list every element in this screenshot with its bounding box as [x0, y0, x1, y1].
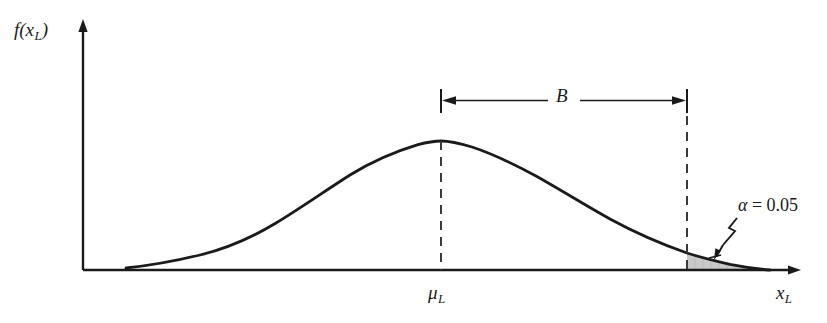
dimension-arrowhead-left	[442, 96, 456, 105]
x-axis-label-subscript: L	[784, 291, 792, 306]
figure-canvas	[0, 0, 827, 323]
x-axis-arrowhead	[788, 265, 801, 274]
y-axis-label: f(xL)	[14, 20, 48, 39]
density-curve	[126, 141, 770, 270]
mean-label-subscript: L	[438, 291, 446, 306]
y-axis-arrowhead	[78, 19, 87, 32]
dimension-arrowhead-right	[672, 96, 686, 105]
alpha-value-text: = 0.05	[747, 195, 798, 215]
y-axis-label-subscript: L	[34, 28, 42, 43]
mean-label-symbol: μ	[428, 282, 438, 303]
mean-label: μL	[428, 283, 445, 302]
interval-label: B	[556, 86, 568, 105]
y-axis-label-close: )	[42, 19, 48, 40]
x-axis-label: xL	[776, 283, 792, 302]
y-axis-label-text: f(x	[14, 19, 34, 40]
alpha-leader-zigzag	[723, 218, 737, 245]
alpha-label: α = 0.05	[738, 196, 798, 214]
distribution-figure: f(xL) xL μL B α = 0.05	[0, 0, 827, 323]
